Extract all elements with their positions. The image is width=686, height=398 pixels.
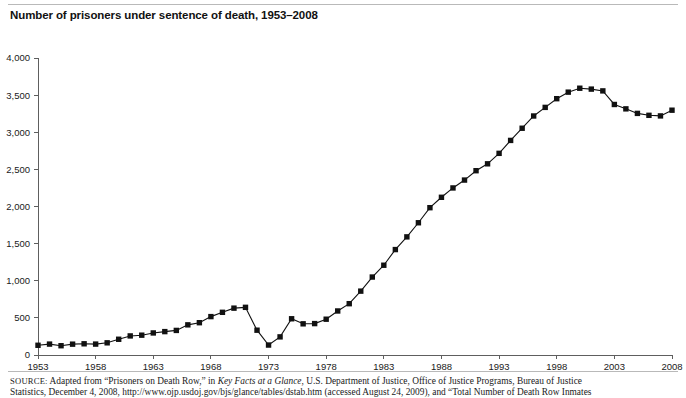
data-point-marker <box>381 263 386 268</box>
data-point-marker <box>254 328 259 333</box>
data-point-marker <box>174 328 179 333</box>
data-point-marker <box>220 310 225 315</box>
y-axis-tick-label: 2,500 <box>6 164 30 175</box>
data-point-marker <box>577 86 582 91</box>
data-point-marker <box>600 88 605 93</box>
data-point-marker <box>277 334 282 339</box>
data-point-marker <box>266 342 271 347</box>
data-point-marker <box>612 102 617 107</box>
source-publication-title: Key Facts at a Glance <box>218 376 302 386</box>
data-point-marker <box>323 317 328 322</box>
data-point-marker <box>635 111 640 116</box>
y-axis-tick-label: 3,500 <box>6 90 30 101</box>
data-point-marker <box>70 341 75 346</box>
x-axis-tick-label: 1958 <box>85 361 106 370</box>
source-divider <box>8 371 678 372</box>
data-point-marker <box>58 343 63 348</box>
data-point-marker <box>197 320 202 325</box>
x-axis-tick-label: 1993 <box>489 361 510 370</box>
data-point-marker <box>81 341 86 346</box>
x-axis-tick-label: 1988 <box>431 361 452 370</box>
chart-plot-area: 05001,0001,5002,0002,5003,0003,5004,000 … <box>0 0 686 370</box>
data-point-marker <box>566 89 571 94</box>
data-point-marker <box>554 96 559 101</box>
data-point-marker <box>404 234 409 239</box>
data-point-marker <box>93 341 98 346</box>
data-point-marker <box>658 113 663 118</box>
data-point-marker <box>416 220 421 225</box>
y-axis-tick-label: 500 <box>14 312 30 323</box>
line-chart-svg: 05001,0001,5002,0002,5003,0003,5004,000 … <box>0 0 686 370</box>
data-point-marker <box>104 340 109 345</box>
source-label: SOURCE: <box>10 376 48 386</box>
data-point-marker <box>289 316 294 321</box>
data-point-marker <box>162 329 167 334</box>
data-point-marker <box>35 343 40 348</box>
data-series-prisoners <box>35 86 674 349</box>
data-point-marker <box>462 177 467 182</box>
data-point-marker <box>370 274 375 279</box>
x-axis-tick-label: 1953 <box>27 361 48 370</box>
x-axis-tick-label: 1983 <box>373 361 394 370</box>
data-point-marker <box>358 288 363 293</box>
x-axis-tick-label: 1978 <box>316 361 337 370</box>
data-point-marker <box>393 247 398 252</box>
chart-page: Number of prisoners under sentence of de… <box>0 0 686 398</box>
data-point-marker <box>531 113 536 118</box>
data-point-marker <box>485 161 490 166</box>
data-point-marker <box>116 337 121 342</box>
data-point-marker <box>312 321 317 326</box>
x-axis-tick-label: 1968 <box>200 361 221 370</box>
data-point-marker <box>427 205 432 210</box>
source-text-1: Adapted from “Prisoners on Death Row,” i… <box>48 376 218 386</box>
data-point-marker <box>646 113 651 118</box>
data-point-marker <box>623 106 628 111</box>
data-point-marker <box>669 108 674 113</box>
y-axis-tick-label: 1,500 <box>6 238 30 249</box>
data-point-marker <box>208 314 213 319</box>
source-note: SOURCE: Adapted from “Prisoners on Death… <box>10 376 686 398</box>
x-axis-tick-label: 1998 <box>546 361 567 370</box>
y-axis-tick-label: 4,000 <box>6 52 30 63</box>
data-point-marker <box>508 138 513 143</box>
data-point-marker <box>543 105 548 110</box>
x-axis-tick-label: 1963 <box>143 361 164 370</box>
data-point-marker <box>519 126 524 131</box>
data-point-marker <box>128 333 133 338</box>
series-line <box>38 88 672 346</box>
data-point-marker <box>347 301 352 306</box>
y-axis-tick-label: 2,000 <box>6 201 30 212</box>
data-point-marker <box>300 321 305 326</box>
data-point-marker <box>450 185 455 190</box>
data-point-marker <box>589 86 594 91</box>
source-text-2: , U.S. Department of Justice, Office of … <box>301 376 582 386</box>
y-axis-tick-label: 1,000 <box>6 275 30 286</box>
data-point-marker <box>473 168 478 173</box>
x-axis-tick-label: 1973 <box>258 361 279 370</box>
data-point-marker <box>243 305 248 310</box>
x-axis: 1953195819631968197319781983198819931998… <box>27 355 682 370</box>
y-axis: 05001,0001,5002,0002,5003,0003,5004,000 <box>6 52 38 360</box>
data-point-marker <box>496 151 501 156</box>
data-point-marker <box>439 195 444 200</box>
y-axis-tick-label: 3,000 <box>6 127 30 138</box>
data-point-marker <box>139 332 144 337</box>
data-point-marker <box>47 341 52 346</box>
y-axis-tick-label: 0 <box>25 349 30 360</box>
x-axis-tick-label: 2003 <box>604 361 625 370</box>
data-point-marker <box>185 322 190 327</box>
data-point-marker <box>335 308 340 313</box>
x-axis-tick-label: 2008 <box>661 361 682 370</box>
data-point-marker <box>231 305 236 310</box>
data-point-marker <box>151 330 156 335</box>
source-text-3: Statistics, December 4, 2008, http://www… <box>10 387 686 398</box>
